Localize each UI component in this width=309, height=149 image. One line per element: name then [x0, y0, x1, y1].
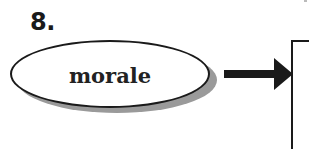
right-arrow-icon — [222, 56, 294, 92]
item-number: 8. — [30, 10, 55, 34]
target-box — [291, 40, 309, 149]
node-label: morale — [69, 63, 151, 88]
scan-artifact — [304, 0, 307, 2]
morale-node: morale — [10, 40, 210, 108]
